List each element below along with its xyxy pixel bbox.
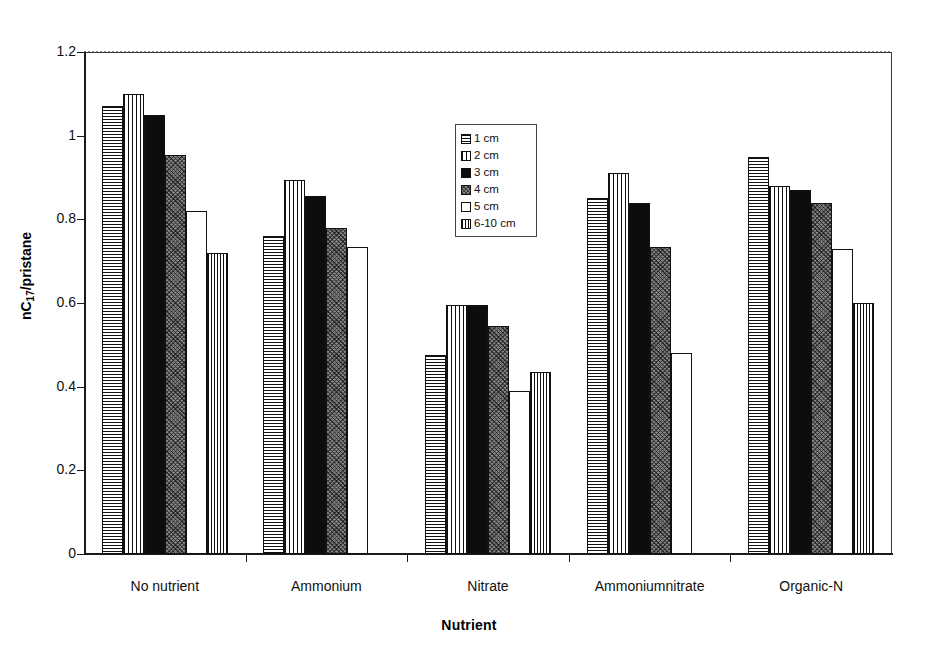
bar-no-nutrient-3-cm bbox=[144, 115, 165, 554]
legend-item: 3 cm bbox=[461, 164, 531, 181]
legend-item: 2 cm bbox=[461, 147, 531, 164]
bar-nitrate-3-cm bbox=[467, 305, 488, 554]
y-tick-label: 0 bbox=[32, 546, 76, 560]
bar-nitrate-1-cm bbox=[425, 355, 446, 554]
x-tick-mark bbox=[569, 554, 570, 562]
y-axis-title-subscript: 17 bbox=[25, 290, 36, 301]
legend-item-label: 1 cm bbox=[474, 133, 499, 145]
bar-ammonium-2-cm bbox=[284, 180, 305, 554]
y-tick-label: 0.8 bbox=[32, 211, 76, 225]
x-category-label: No nutrient bbox=[84, 578, 246, 594]
legend-item: 6-10 cm bbox=[461, 215, 531, 232]
bar-ammoniumnitrate-1-cm bbox=[587, 198, 608, 554]
legend-item-label: 5 cm bbox=[474, 201, 499, 213]
y-axis-title: nC17/pristane bbox=[18, 186, 34, 366]
bar-ammoniumnitrate-5-cm bbox=[671, 353, 692, 554]
y-tick-label: 0.4 bbox=[32, 379, 76, 393]
bar-chart: 00.20.40.60.811.2 nC17/pristane No nutri… bbox=[0, 0, 938, 660]
bar-ammoniumnitrate-3-cm bbox=[629, 203, 650, 554]
legend: 1 cm2 cm3 cm4 cm5 cm6-10 cm bbox=[455, 124, 537, 237]
x-axis-title: Nutrient bbox=[0, 617, 938, 633]
bar-ammonium-3-cm bbox=[305, 196, 326, 554]
x-category-label: Nitrate bbox=[407, 578, 569, 594]
bar-no-nutrient-6-10-cm bbox=[207, 253, 228, 554]
bar-nitrate-6-10-cm bbox=[530, 372, 551, 554]
x-tick-mark bbox=[730, 554, 731, 562]
legend-swatch-icon bbox=[461, 202, 471, 212]
legend-item: 1 cm bbox=[461, 130, 531, 147]
x-category-label: Ammoniumnitrate bbox=[569, 578, 731, 594]
x-tick-mark bbox=[246, 554, 247, 562]
bar-organic-n-2-cm bbox=[769, 186, 790, 554]
legend-swatch-icon bbox=[461, 134, 471, 144]
y-axis-title-tail: /pristane bbox=[18, 232, 34, 290]
bar-nitrate-2-cm bbox=[446, 305, 467, 554]
bar-organic-n-6-10-cm bbox=[853, 303, 874, 554]
bar-organic-n-3-cm bbox=[790, 190, 811, 554]
legend-item: 5 cm bbox=[461, 198, 531, 215]
bar-organic-n-5-cm bbox=[832, 249, 853, 554]
legend-swatch-icon bbox=[461, 185, 471, 195]
legend-item-label: 6-10 cm bbox=[474, 218, 516, 230]
bar-ammonium-5-cm bbox=[347, 247, 368, 554]
legend-swatch-icon bbox=[461, 168, 471, 178]
legend-item-label: 3 cm bbox=[474, 167, 499, 179]
bar-no-nutrient-5-cm bbox=[186, 211, 207, 554]
bar-nitrate-4-cm bbox=[488, 326, 509, 554]
y-tick-label: 0.6 bbox=[32, 295, 76, 309]
legend-swatch-icon bbox=[461, 151, 471, 161]
bar-no-nutrient-2-cm bbox=[123, 94, 144, 554]
y-tick-label: 1.2 bbox=[32, 44, 76, 58]
bar-ammonium-1-cm bbox=[263, 236, 284, 554]
x-category-label: Organic-N bbox=[730, 578, 892, 594]
legend-swatch-icon bbox=[461, 219, 471, 229]
bar-ammoniumnitrate-2-cm bbox=[608, 173, 629, 554]
y-tick-mark bbox=[77, 554, 85, 555]
bar-ammonium-4-cm bbox=[326, 228, 347, 554]
y-axis-title-base: nC bbox=[18, 301, 34, 320]
bar-nitrate-5-cm bbox=[509, 391, 530, 554]
legend-item: 4 cm bbox=[461, 181, 531, 198]
bar-no-nutrient-1-cm bbox=[102, 106, 123, 554]
bar-no-nutrient-4-cm bbox=[165, 155, 186, 555]
legend-item-label: 4 cm bbox=[474, 184, 499, 196]
bar-ammoniumnitrate-4-cm bbox=[650, 247, 671, 554]
x-category-label: Ammonium bbox=[246, 578, 408, 594]
y-tick-label: 0.2 bbox=[32, 462, 76, 476]
x-tick-mark bbox=[407, 554, 408, 562]
bar-organic-n-4-cm bbox=[811, 203, 832, 554]
y-tick-label: 1 bbox=[32, 128, 76, 142]
legend-item-label: 2 cm bbox=[474, 150, 499, 162]
bar-organic-n-1-cm bbox=[748, 157, 769, 554]
